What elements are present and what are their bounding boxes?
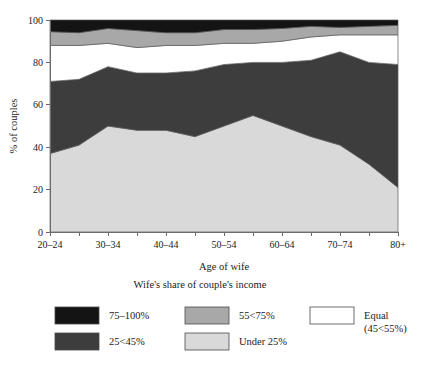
y-tick-label: 60 (33, 99, 43, 110)
y-tick-label: 0 (38, 227, 43, 238)
x-tick-label: 30–34 (96, 239, 121, 250)
y-axis-title: % of couples (8, 99, 19, 154)
x-tick-label: 50–54 (212, 239, 237, 250)
legend-label-3: Under 25% (239, 336, 287, 347)
legend-title: Wife's share of couple's income (134, 279, 267, 290)
y-tick-label: 80 (33, 57, 43, 68)
y-tick-label: 40 (33, 142, 43, 153)
x-axis-title: Age of wife (199, 261, 249, 272)
x-tick-label: 80+ (390, 239, 406, 250)
x-tick-label: 20–24 (38, 239, 63, 250)
stacked-area-chart-figure: 020406080100 20–2430–3440–4450–5460–6470… (0, 0, 424, 366)
legend-label-2: 55<75% (239, 310, 275, 321)
legend-swatch-1[interactable] (55, 333, 99, 350)
x-tick-label: 40–44 (154, 239, 179, 250)
y-tick-label: 100 (28, 15, 43, 26)
legend-swatch-2[interactable] (185, 307, 229, 324)
legend-label-0: 75–100% (109, 310, 150, 321)
chart-plot-area (50, 20, 398, 232)
legend-label-1: 25<45% (109, 336, 145, 347)
legend-label-4: Equal (364, 310, 389, 321)
x-tick-label: 60–64 (270, 239, 295, 250)
legend-swatch-3[interactable] (185, 333, 229, 350)
y-tick-label: 20 (33, 184, 43, 195)
legend-swatch-4[interactable] (310, 307, 354, 324)
x-tick-label: 70–74 (328, 239, 353, 250)
legend-label-4-line2: (45<55%) (364, 323, 407, 335)
legend-swatch-0[interactable] (55, 307, 99, 324)
